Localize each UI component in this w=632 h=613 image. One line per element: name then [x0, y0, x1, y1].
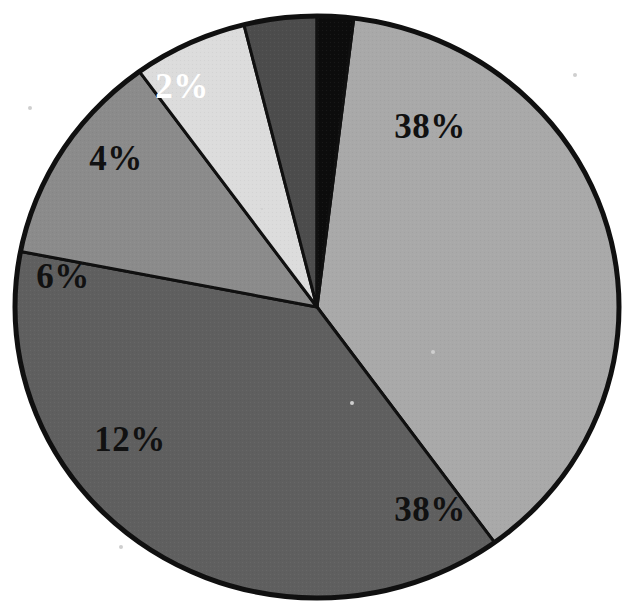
pie-chart-canvas: 38%38%12%6%4%2% — [0, 0, 632, 613]
scan-speck — [261, 208, 263, 210]
pie-slice-label-4pct: 4% — [89, 139, 143, 178]
scan-speck — [119, 545, 123, 549]
scan-speck — [350, 401, 354, 405]
pie-slice-label-2pct: 2% — [155, 67, 209, 106]
scan-speck — [573, 73, 577, 77]
scan-speck — [28, 106, 32, 110]
pie-slice-label-38pct: 38% — [394, 107, 466, 146]
scan-speck — [431, 350, 435, 354]
pie-slices — [15, 16, 619, 598]
pie-slice-label-6pct: 6% — [36, 257, 90, 296]
pie-slice-label-38pct: 38% — [394, 490, 466, 529]
pie-chart: 38%38%12%6%4%2% — [0, 0, 632, 613]
pie-slice-label-12pct: 12% — [94, 420, 166, 459]
